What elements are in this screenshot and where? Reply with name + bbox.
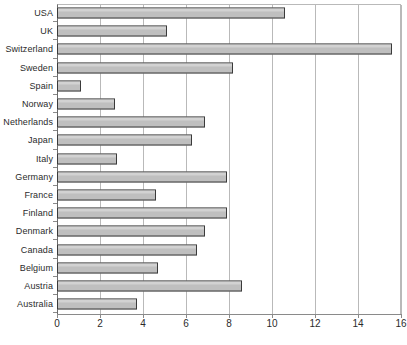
bar-row: Canada <box>0 240 405 258</box>
bar-row: Italy <box>0 150 405 168</box>
x-tick-label: 0 <box>54 318 60 329</box>
x-tick-label: 16 <box>395 318 406 329</box>
category-label: Spain <box>0 81 53 91</box>
bar-row: Spain <box>0 77 405 95</box>
category-label: Switzerland <box>0 44 53 54</box>
bar <box>57 208 227 219</box>
bar-row: France <box>0 186 405 204</box>
bar-row: Austria <box>0 277 405 295</box>
x-tick-mark <box>57 314 58 318</box>
x-tick-mark <box>100 314 101 318</box>
x-tick-mark <box>143 314 144 318</box>
category-label: Finland <box>0 208 53 218</box>
category-label: Norway <box>0 99 53 109</box>
category-label: Belgium <box>0 263 53 273</box>
bar <box>57 99 115 110</box>
bar-row: Japan <box>0 131 405 149</box>
bar-row: Belgium <box>0 259 405 277</box>
bar <box>57 8 285 19</box>
x-tick-label: 2 <box>97 318 103 329</box>
bar <box>57 26 167 37</box>
bar-row: Denmark <box>0 222 405 240</box>
bar <box>57 244 197 255</box>
category-label: Austria <box>0 281 53 291</box>
x-tick-mark <box>272 314 273 318</box>
category-label: France <box>0 190 53 200</box>
category-label: Denmark <box>0 226 53 236</box>
bar <box>57 153 117 164</box>
x-tick-label: 8 <box>226 318 232 329</box>
category-label: Japan <box>0 135 53 145</box>
bar-row: Australia <box>0 295 405 313</box>
bar <box>57 189 156 200</box>
x-tick-mark <box>229 314 230 318</box>
category-label: USA <box>0 8 53 18</box>
bar-row: Finland <box>0 204 405 222</box>
category-label: Sweden <box>0 63 53 73</box>
bar <box>57 135 192 146</box>
bar <box>57 80 81 91</box>
category-label: UK <box>0 26 53 36</box>
bar-row: UK <box>0 22 405 40</box>
x-axis-tick-labels: 0246810121416 <box>0 318 405 342</box>
bar <box>57 262 158 273</box>
bar-row: Norway <box>0 95 405 113</box>
x-tick-mark <box>186 314 187 318</box>
bar-row: Sweden <box>0 59 405 77</box>
bar <box>57 280 242 291</box>
x-tick-mark <box>315 314 316 318</box>
bar <box>57 117 205 128</box>
bar-row: Switzerland <box>0 40 405 58</box>
bar-rows: USAUKSwitzerlandSwedenSpainNorwayNetherl… <box>0 4 405 314</box>
x-tick-mark <box>401 314 402 318</box>
bar <box>57 44 392 55</box>
x-tick-label: 10 <box>266 318 277 329</box>
category-label: Italy <box>0 154 53 164</box>
category-label: Australia <box>0 299 53 309</box>
category-label: Canada <box>0 245 53 255</box>
bar <box>57 62 233 73</box>
x-tick-label: 14 <box>352 318 363 329</box>
bar-row: USA <box>0 4 405 22</box>
x-tick-label: 12 <box>309 318 320 329</box>
bar <box>57 299 137 310</box>
x-tick-label: 6 <box>183 318 189 329</box>
category-label: Netherlands <box>0 117 53 127</box>
bar-row: Netherlands <box>0 113 405 131</box>
x-tick-mark <box>358 314 359 318</box>
bar <box>57 171 227 182</box>
bar <box>57 226 205 237</box>
bar-row: Germany <box>0 168 405 186</box>
category-label: Germany <box>0 172 53 182</box>
x-tick-label: 4 <box>140 318 146 329</box>
